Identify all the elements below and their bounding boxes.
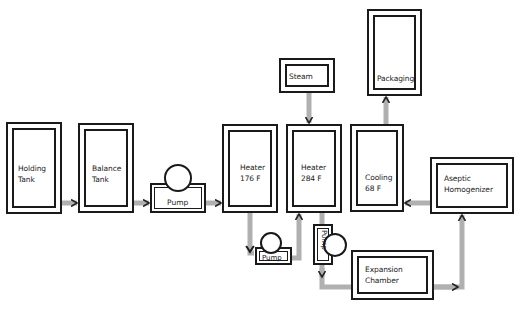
holding-tank-label-1: Holding — [18, 163, 46, 174]
heater-176f-label-1: Heater — [240, 162, 265, 173]
holding-tank-label-2: Tank — [18, 174, 46, 185]
pump-3-label: Pump — [320, 230, 328, 250]
packaging-label: Packaging — [377, 73, 414, 84]
flow-pump2-to-heater284 — [292, 214, 299, 258]
heater-176f-label-2: 176 F — [240, 173, 265, 184]
aseptic-homogenizer: Aseptic Homogenizer — [430, 157, 514, 214]
balance-tank-label-1: Balance — [92, 163, 121, 174]
pump-1-impeller-icon — [164, 164, 192, 192]
process-flow-diagram: Holding Tank Balance Tank Pump Heater 17… — [0, 0, 522, 312]
balance-tank-label-2: Tank — [92, 174, 121, 185]
expansion-chamber-label-2: Chamber — [365, 275, 403, 286]
pump-2-impeller-icon — [260, 232, 282, 254]
heater-176f: Heater 176 F — [222, 124, 278, 213]
cooling-label-1: Cooling — [365, 172, 392, 183]
heater-284f-label-2: 284 F — [301, 173, 326, 184]
cooling-68f: Cooling 68 F — [350, 124, 404, 212]
heater-284f-label-1: Heater — [301, 162, 326, 173]
heater-284f: Heater 284 F — [286, 124, 342, 213]
flow-pump3-to-expansion — [322, 265, 351, 287]
packaging: Packaging — [367, 9, 422, 96]
aseptic-homogenizer-label-2: Homogenizer — [444, 184, 493, 195]
balance-tank: Balance Tank — [78, 123, 134, 213]
pump-2-label: Pump — [262, 254, 282, 262]
holding-tank: Holding Tank — [6, 122, 62, 214]
cooling-label-2: 68 F — [365, 183, 392, 194]
steam-label: Steam — [289, 71, 313, 82]
aseptic-homogenizer-label-1: Aseptic — [444, 173, 493, 184]
expansion-chamber-label-1: Expansion — [365, 264, 403, 275]
expansion-chamber: Expansion Chamber — [351, 250, 434, 300]
flow-expansion-to-homogenizer — [434, 215, 462, 287]
steam-source: Steam — [279, 58, 335, 93]
pump-1-label: Pump — [167, 198, 188, 207]
